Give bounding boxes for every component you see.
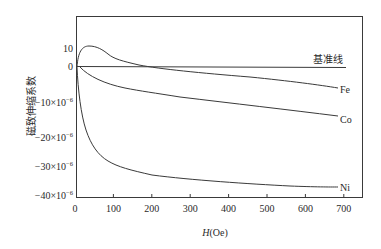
y-tick-neg10: −10×10−6: [35, 96, 74, 108]
ni-series-line: [77, 67, 338, 187]
baseline-series-line: [77, 67, 346, 68]
co-label: Co: [340, 114, 352, 125]
x-tick-200: 200: [144, 203, 159, 214]
x-tick-600: 600: [298, 203, 313, 214]
plot-frame: [77, 17, 363, 198]
y-tick-neg20: −20×10−6: [35, 131, 74, 143]
x-tick-0: 0: [73, 203, 78, 214]
x-axis-title: H(Oe): [201, 227, 228, 239]
x-tick-500: 500: [260, 203, 275, 214]
x-tick-100: 100: [106, 203, 121, 214]
x-axis-ticks: [113, 194, 343, 197]
y-axis-tick-labels: 10 0 −10×10−6 −20×10−6 −30×10−6 −40×10−6: [35, 43, 74, 201]
y-tick-0: 0: [68, 61, 73, 72]
x-tick-700: 700: [336, 203, 351, 214]
x-tick-300: 300: [183, 203, 198, 214]
baseline-label: 基准线: [313, 53, 343, 65]
chart-canvas: 0 100 200 300 400 500 600 700 H(Oe) 10 0…: [0, 0, 381, 249]
y-tick-neg40: −40×10−6: [35, 189, 74, 201]
y-tick-10: 10: [63, 43, 73, 54]
co-series-line: [80, 67, 338, 116]
ni-label: Ni: [340, 182, 350, 193]
x-axis-tick-labels: 0 100 200 300 400 500 600 700: [73, 203, 352, 214]
y-tick-neg30: −30×10−6: [35, 160, 74, 172]
x-tick-400: 400: [221, 203, 236, 214]
y-axis-title: 磁致伸缩系数: [25, 76, 37, 136]
fe-label: Fe: [340, 84, 351, 95]
